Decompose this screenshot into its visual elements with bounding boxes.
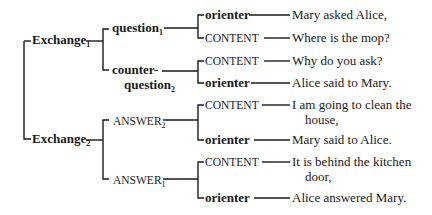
leaf-text: Alice said to Mary. [292, 76, 392, 90]
node-label: Exchange [32, 131, 86, 146]
node-subscript: 1 [86, 40, 90, 49]
leaf-text: Alice answered Mary. [292, 191, 406, 205]
node-exchange-1: Exchange1 [32, 33, 90, 52]
node-label: Exchange [32, 32, 86, 47]
node-question-1: question1 [112, 21, 163, 40]
role-orienter: orienter [205, 133, 250, 147]
role-content: CONTENT [205, 98, 259, 112]
node-subscript: 2 [171, 85, 175, 94]
role-content: CONTENT [205, 31, 259, 45]
node-answer-1: ANSWER1 [113, 173, 166, 192]
leaf-text: Where is the mop? [292, 31, 390, 45]
role-orienter: orienter [205, 76, 250, 90]
leaf-text-line1: I am going to clean the [292, 98, 412, 112]
node-subscript: 2 [162, 121, 166, 130]
role-orienter: orienter [205, 191, 250, 205]
leaf-text: Why do you ask? [292, 54, 383, 68]
role-content: CONTENT [205, 54, 259, 68]
node-subscript: 2 [86, 139, 90, 148]
node-label: ANSWER [113, 115, 162, 127]
leaf-text-line1: It is behind the kitchen [292, 155, 411, 169]
role-orienter: orienter [205, 8, 250, 22]
node-answer-2: ANSWER2 [113, 114, 166, 133]
node-label: question [112, 20, 159, 35]
node-subscript: 1 [159, 28, 163, 37]
node-label: question [124, 77, 171, 92]
node-exchange-2: Exchange2 [32, 132, 90, 151]
leaf-text-line2: door, [305, 170, 332, 184]
node-label: ANSWER [113, 174, 162, 186]
leaf-text: Mary asked Alice, [292, 8, 387, 22]
leaf-text-line2: house, [305, 113, 339, 127]
node-counter-question-line2: question2 [124, 78, 175, 97]
node-subscript: 1 [162, 180, 166, 189]
node-counter-question-line1: counter- [112, 63, 158, 77]
role-content: CONTENT [205, 155, 259, 169]
leaf-text: Mary said to Alice. [292, 133, 392, 147]
